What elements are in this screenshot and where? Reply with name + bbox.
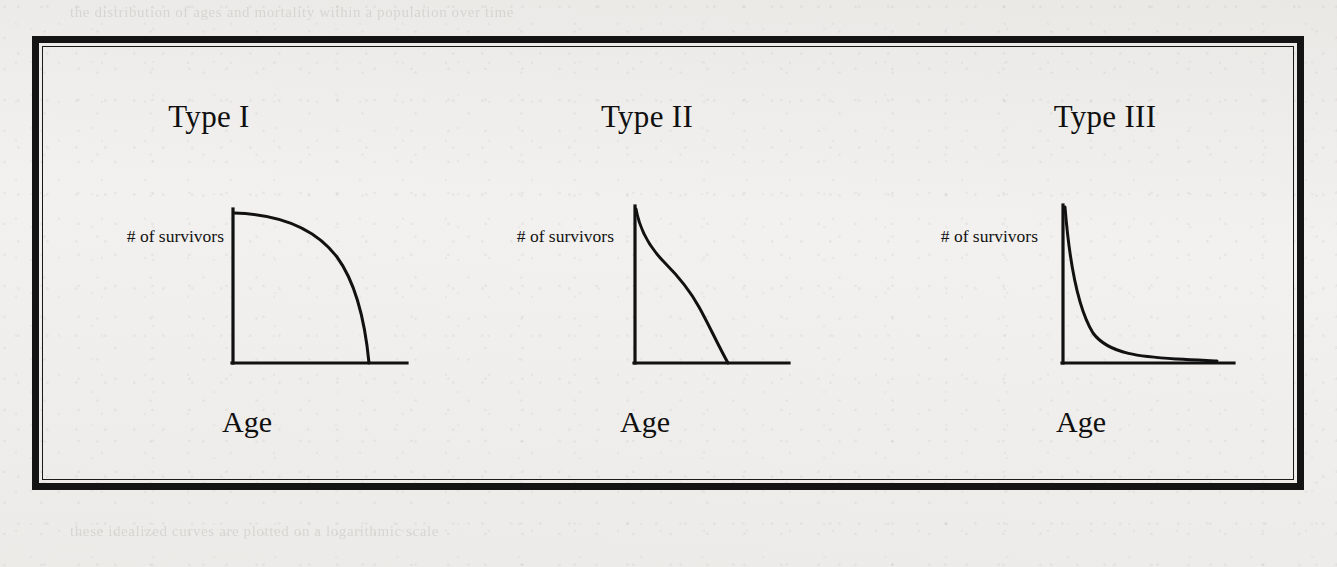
panel-type-2: Type II # of survivors Age [463, 43, 875, 483]
panel-title-type-1: Type I [0, 99, 421, 135]
figure-frame: Type I # of survivors Age Type II # of s… [32, 36, 1304, 490]
ghost-text-top: the distribution of ages and mortality w… [70, 4, 1270, 21]
curve-type-1 [234, 213, 369, 363]
x-axis-label-type-2: Age [585, 405, 705, 439]
panel-title-type-2: Type II [441, 99, 853, 135]
panel-type-3: Type III # of survivors Age [875, 43, 1311, 483]
y-axis-label-type-3: # of survivors [893, 226, 1038, 247]
x-axis-label-type-1: Age [187, 405, 307, 439]
curve-type-3 [1065, 207, 1217, 361]
y-axis-label-type-1: # of survivors [79, 226, 224, 247]
panel-title-type-3: Type III [887, 99, 1323, 135]
plot-type-2 [631, 201, 821, 391]
plot-type-1 [229, 201, 429, 391]
y-axis-label-type-2: # of survivors [469, 226, 614, 247]
survivorship-panels: Type I # of survivors Age Type II # of s… [39, 43, 1297, 483]
panel-type-1: Type I # of survivors Age [39, 43, 463, 483]
curve-type-2 [636, 209, 728, 363]
plot-type-3 [1059, 195, 1269, 395]
x-axis-label-type-3: Age [1021, 405, 1141, 439]
ghost-text-bottom: these idealized curves are plotted on a … [70, 523, 1270, 540]
